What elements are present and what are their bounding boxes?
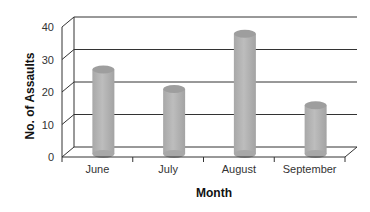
bar-august	[234, 30, 256, 158]
y-tick-label: 0	[48, 151, 54, 163]
bars	[92, 30, 326, 158]
y-tick-label: 30	[42, 54, 54, 66]
x-tick-labels: JuneJulyAugustSeptember	[85, 163, 336, 175]
x-axis-title: Month	[196, 186, 232, 200]
y-tick-label: 10	[42, 119, 54, 131]
bar-july	[163, 85, 185, 158]
x-tick-label: August	[222, 163, 256, 175]
y-tick-labels: 010203040	[42, 21, 54, 163]
bar-september	[305, 101, 327, 158]
y-tick-label: 40	[42, 21, 54, 33]
x-tick-label: June	[85, 163, 109, 175]
y-axis-title: No. of Assaults	[23, 52, 37, 139]
x-tick-label: September	[283, 163, 337, 175]
y-tick-label: 20	[42, 86, 54, 98]
x-tick-label: July	[158, 163, 178, 175]
bar-june	[92, 66, 114, 159]
bar-chart: 010203040 JuneJulyAugustSeptember No. of…	[0, 0, 370, 212]
